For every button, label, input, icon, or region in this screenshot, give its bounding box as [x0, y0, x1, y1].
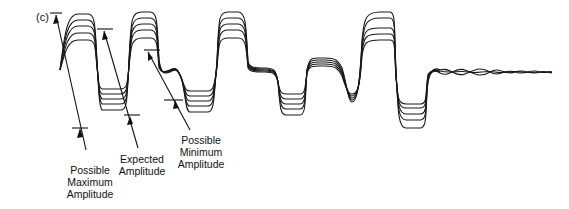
waveform-diagram: (c)	[0, 0, 569, 209]
annotation-expected-amplitude: Expected Amplitude	[113, 153, 171, 177]
trace-5	[60, 38, 325, 94]
trace-group	[60, 12, 552, 128]
annotation-min-amplitude: Possible Minimum Amplitude	[172, 134, 230, 170]
annotation-max-amplitude: Possible Maximum Amplitude	[60, 164, 120, 200]
trace-4	[60, 30, 325, 99]
min-amplitude-marker	[144, 50, 190, 130]
